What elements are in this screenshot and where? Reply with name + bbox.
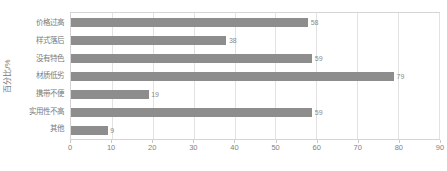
plot-area: 58 38 59 79 19 59 [70,12,440,140]
bar-row: 79 [71,67,439,85]
bar-row: 38 [71,31,439,49]
x-axis-tick-label: 0 [68,144,72,152]
y-axis-title-text: 百分比/% [4,59,12,92]
x-axis-tick-label: 70 [354,144,362,152]
bar-row: 59 [71,49,439,67]
bar-value-label: 79 [397,73,405,80]
bar-row: 58 [71,13,439,31]
bar-value-label: 38 [229,37,237,44]
x-axis: 0102030405060708090 [70,140,440,156]
x-axis-tick-label: 20 [148,144,156,152]
bar[interactable] [71,54,312,63]
bar-row: 19 [71,85,439,103]
bar-chart: 百分比/% 价格过高 样式落后 没有特色 材质低劣 携带不便 实用性不高 其他 … [0,0,447,171]
category-tick-label: 样式落后 [16,32,68,50]
bar-value-label: 59 [315,55,323,62]
gridline [439,13,440,139]
x-axis-tick-label: 60 [312,144,320,152]
y-axis-title: 百分比/% [0,0,16,152]
category-tick-label: 实用性不高 [16,103,68,121]
x-axis-tick-label: 80 [395,144,403,152]
bar[interactable] [71,90,149,99]
bar[interactable] [71,18,308,27]
bar-value-label: 58 [311,19,319,26]
category-tick-label: 材质低劣 [16,67,68,85]
bars-layer: 58 38 59 79 19 59 [71,13,439,139]
x-axis-tick-label: 30 [189,144,197,152]
bar-row: 59 [71,103,439,121]
category-axis: 价格过高 样式落后 没有特色 材质低劣 携带不便 实用性不高 其他 [16,14,68,138]
x-axis-tick-label: 50 [271,144,279,152]
category-tick-label: 携带不便 [16,85,68,103]
bar[interactable] [71,126,108,135]
bar-value-label: 59 [315,109,323,116]
category-tick-label: 其他 [16,120,68,138]
bar-value-label: 19 [151,91,159,98]
category-tick-label: 没有特色 [16,49,68,67]
bar[interactable] [71,108,312,117]
x-axis-tick-label: 10 [107,144,115,152]
bar-value-label: 9 [110,127,114,134]
bar-row: 9 [71,121,439,139]
bar[interactable] [71,36,226,45]
bar[interactable] [71,72,394,81]
category-tick-label: 价格过高 [16,14,68,32]
x-axis-tick-label: 40 [230,144,238,152]
x-axis-tick-label: 90 [436,144,444,152]
